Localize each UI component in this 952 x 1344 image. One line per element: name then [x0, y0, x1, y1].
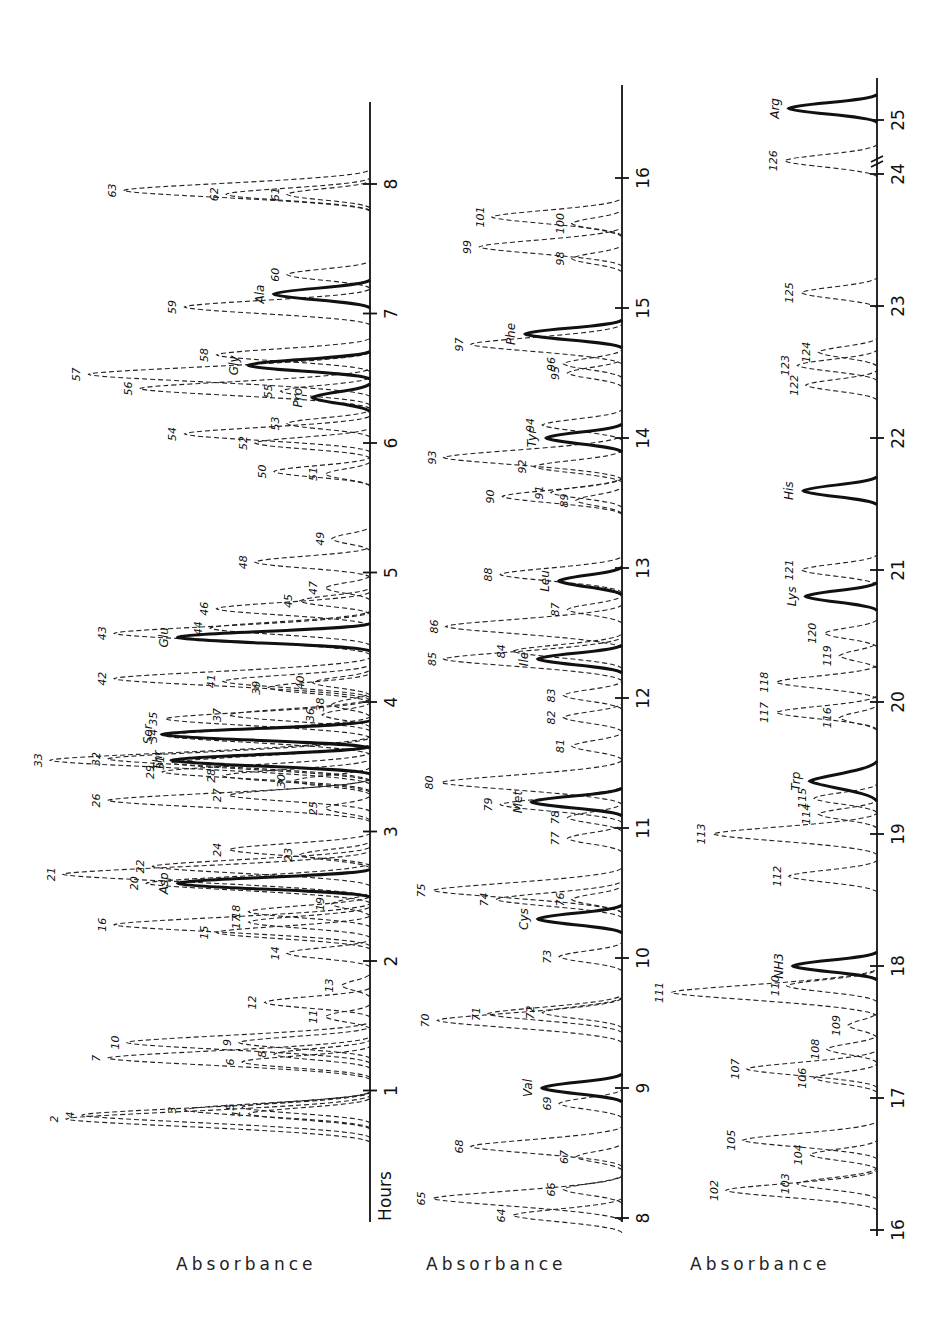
peak-number-label: 111 — [653, 982, 666, 1003]
peak-number-label: 23 — [282, 848, 295, 862]
peak-number-label: 38 — [314, 698, 327, 712]
peak-number-label: 112 — [771, 866, 784, 887]
peak-number-label: 125 — [783, 282, 796, 303]
amino-acid-peak-glu — [178, 623, 370, 651]
peak-number-label: 47 — [307, 581, 320, 595]
peak-number-label: 10 — [109, 1036, 122, 1050]
amino-acid-label: Ala — [253, 285, 267, 305]
dashed-peak — [563, 350, 622, 378]
tick-label: 7 — [381, 308, 401, 319]
peak-number-label: 77 — [549, 831, 562, 845]
peak-number-label: 19 — [314, 897, 327, 911]
amino-acid-peak-gly — [248, 351, 370, 379]
tick-label: 9 — [633, 1083, 653, 1094]
dashed-peak — [325, 796, 370, 820]
dashed-peak — [312, 670, 370, 695]
tick-label: 8 — [633, 1213, 653, 1224]
tick-label: 3 — [381, 826, 401, 837]
dashed-peak — [839, 643, 877, 668]
dashed-peak — [534, 451, 622, 483]
dashed-peak — [839, 705, 877, 730]
tick-label: 25 — [888, 109, 908, 131]
dashed-peak — [825, 620, 878, 647]
tick-label: 21 — [888, 559, 908, 581]
tick-label: 14 — [633, 427, 653, 449]
peak-number-label: 100 — [554, 213, 567, 234]
dashed-peak — [287, 940, 370, 967]
dashed-peak — [127, 1022, 370, 1063]
peak-number-label: 43 — [96, 626, 109, 640]
amino-acid-label: Ser — [141, 723, 155, 744]
dashed-peak — [726, 1170, 877, 1210]
peak-number-label: 55 — [262, 384, 275, 398]
peak-number-label: 50 — [256, 464, 269, 478]
peak-number-label: 109 — [830, 1015, 843, 1036]
peak-number-label: 99 — [461, 240, 474, 254]
panel-2: 8910111213141516646566676869707172737475… — [415, 85, 653, 1233]
tick-label: 13 — [633, 557, 653, 579]
tick-label: 1 — [381, 1085, 401, 1096]
tick-label: 11 — [633, 817, 653, 839]
peak-number-label: 78 — [549, 811, 562, 825]
dashed-peak — [300, 842, 370, 868]
peak-number-label: 87 — [549, 603, 562, 617]
peak-number-label: 89 — [558, 493, 571, 507]
peak-number-label: 37 — [211, 708, 224, 722]
peak-number-label: 59 — [166, 300, 179, 314]
peak-number-label: 42 — [96, 672, 109, 686]
peak-number-label: 5 — [224, 1104, 237, 1111]
peak-number-label: 15 — [198, 926, 211, 940]
dashed-peak — [152, 847, 370, 886]
peak-number-label: 45 — [282, 594, 295, 608]
dashed-peak — [818, 338, 877, 366]
peak-number-label: 67 — [558, 1150, 571, 1164]
amino-acid-label: His — [783, 481, 797, 500]
peak-number-label: 56 — [122, 382, 135, 396]
dashed-peak — [567, 825, 622, 852]
peak-number-label: 48 — [237, 555, 250, 569]
peak-number-label: 76 — [554, 893, 567, 907]
dashed-peak — [274, 457, 370, 485]
dashed-peak — [801, 278, 877, 308]
dashed-peak — [479, 227, 622, 266]
peak-number-label: 68 — [453, 1140, 466, 1154]
dashed-peak — [332, 527, 370, 550]
peak-number-label: 82 — [545, 711, 558, 725]
peak-number-label: 54 — [166, 427, 179, 441]
chromatogram-chart: 1234567812345678910111213141516171819202… — [0, 0, 952, 1344]
dashed-peak — [542, 997, 622, 1028]
peak-number-label: 83 — [545, 688, 558, 702]
dashed-peak — [785, 145, 877, 177]
peak-number-label: 73 — [541, 950, 554, 964]
dashed-peak — [325, 576, 370, 600]
dashed-peak — [124, 170, 370, 212]
dashed-peak — [818, 800, 877, 828]
peak-number-label: 107 — [729, 1058, 742, 1079]
tick-label: 5 — [381, 567, 401, 578]
dashed-peak — [572, 245, 622, 272]
peak-number-label: 27 — [211, 788, 224, 802]
peak-number-label: 71 — [470, 1007, 483, 1021]
dashed-peak — [441, 760, 622, 804]
amino-acid-label: Lys — [785, 587, 799, 607]
peak-number-label: 22 — [134, 859, 147, 873]
amino-acid-label: Gly — [227, 355, 241, 376]
amino-acid-label: Phe — [504, 323, 518, 345]
dashed-peak — [563, 681, 622, 709]
peak-number-label: 98 — [554, 252, 567, 266]
tick-label: 17 — [888, 1087, 908, 1109]
amino-acid-label: Met — [511, 789, 525, 813]
peak-number-label: 74 — [478, 893, 491, 907]
peak-number-label: 123 — [779, 355, 792, 376]
peak-number-label: 35 — [147, 712, 160, 726]
dashed-peak — [444, 637, 623, 681]
peak-number-label: 93 — [426, 451, 439, 465]
amino-acid-label: Trp — [789, 771, 803, 790]
peak-number-label: 12 — [246, 995, 259, 1009]
peak-number-label: 106 — [796, 1068, 809, 1089]
dashed-peak — [66, 1096, 370, 1143]
dashed-peak — [572, 733, 622, 760]
peak-number-label: 63 — [106, 183, 119, 197]
peak-number-label: 51 — [307, 467, 320, 481]
absorbance-label-panel-3: Absorbance — [690, 1254, 830, 1274]
